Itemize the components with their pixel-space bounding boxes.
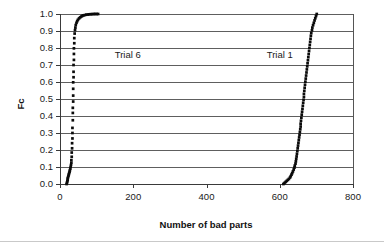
data-point bbox=[299, 125, 302, 128]
data-point bbox=[73, 59, 76, 62]
data-point bbox=[298, 136, 301, 139]
data-point bbox=[72, 70, 75, 73]
data-point bbox=[299, 122, 302, 125]
data-point bbox=[302, 101, 305, 104]
data-point bbox=[306, 68, 309, 71]
data-point bbox=[70, 159, 73, 162]
data-point bbox=[71, 137, 74, 140]
y-axis-title: Fc bbox=[15, 98, 26, 109]
y-tick-label: 0.0 bbox=[40, 178, 53, 189]
data-point bbox=[304, 77, 307, 80]
data-point bbox=[71, 147, 74, 150]
data-point bbox=[295, 155, 298, 158]
data-point bbox=[307, 53, 310, 56]
data-point bbox=[308, 47, 311, 50]
data-point bbox=[310, 34, 313, 37]
data-point bbox=[305, 71, 308, 74]
data-point bbox=[70, 161, 73, 164]
data-point bbox=[72, 94, 75, 97]
data-point bbox=[97, 13, 100, 16]
y-tick-label: 0.4 bbox=[40, 110, 53, 121]
data-point bbox=[73, 37, 76, 40]
data-point bbox=[307, 56, 310, 59]
data-point bbox=[71, 142, 74, 145]
data-point bbox=[307, 59, 310, 62]
data-point bbox=[297, 144, 300, 147]
y-tick-label: 0.9 bbox=[40, 25, 53, 36]
data-point bbox=[71, 106, 74, 109]
y-tick-label: 0.6 bbox=[40, 76, 53, 87]
data-point bbox=[311, 26, 314, 29]
data-point bbox=[310, 32, 313, 35]
data-point bbox=[72, 100, 75, 103]
data-point bbox=[304, 83, 307, 86]
data-point bbox=[308, 50, 311, 53]
data-point bbox=[302, 99, 305, 102]
data-point bbox=[304, 80, 307, 83]
data-point bbox=[300, 116, 303, 119]
data-point bbox=[312, 24, 315, 27]
data-point bbox=[70, 155, 73, 158]
data-point bbox=[300, 113, 303, 116]
data-point bbox=[299, 128, 302, 131]
y-tick-label: 0.3 bbox=[40, 127, 53, 138]
y-tick-label: 0.7 bbox=[40, 59, 53, 70]
chart-figure: 0.00.10.20.30.40.50.60.70.80.91.0 020040… bbox=[0, 0, 384, 247]
x-tick-label: 800 bbox=[345, 191, 361, 202]
data-point bbox=[296, 150, 299, 153]
data-point bbox=[71, 132, 74, 135]
x-tick-label: 0 bbox=[57, 191, 62, 202]
data-point bbox=[301, 110, 304, 113]
data-point bbox=[308, 44, 311, 47]
data-point bbox=[74, 29, 77, 32]
y-tick-label: 1.0 bbox=[40, 8, 53, 19]
data-point bbox=[309, 37, 312, 40]
data-point bbox=[73, 53, 76, 56]
data-point bbox=[73, 32, 76, 35]
y-tick-label: 0.5 bbox=[40, 93, 53, 104]
data-point bbox=[72, 81, 75, 84]
data-point bbox=[71, 127, 74, 130]
data-point bbox=[315, 13, 318, 16]
data-point bbox=[311, 29, 314, 32]
data-point bbox=[74, 26, 77, 29]
y-tick-label: 0.1 bbox=[40, 161, 53, 172]
data-point bbox=[300, 119, 303, 122]
data-point bbox=[309, 41, 312, 44]
data-point bbox=[295, 160, 298, 163]
data-point bbox=[73, 47, 76, 50]
x-tick-label: 200 bbox=[125, 191, 141, 202]
y-axis-tick-labels: 0.00.10.20.30.40.50.60.70.80.91.0 bbox=[40, 8, 53, 189]
data-point bbox=[72, 76, 75, 79]
data-point bbox=[295, 157, 298, 160]
cumulative-distribution-chart: 0.00.10.20.30.40.50.60.70.80.91.0 020040… bbox=[0, 0, 384, 247]
y-tick-label: 0.2 bbox=[40, 144, 53, 155]
data-point bbox=[297, 139, 300, 142]
data-point bbox=[303, 93, 306, 96]
data-point bbox=[296, 147, 299, 150]
data-point bbox=[297, 142, 300, 145]
data-point bbox=[72, 87, 75, 90]
data-point bbox=[72, 64, 75, 67]
x-axis-title: Number of bad parts bbox=[160, 219, 253, 230]
data-point bbox=[299, 131, 302, 134]
data-point bbox=[71, 119, 74, 122]
x-tick-label: 400 bbox=[199, 191, 215, 202]
annotation-trial-6: Trial 6 bbox=[115, 49, 141, 60]
data-point bbox=[71, 112, 74, 115]
annotation-trial-1: Trial 1 bbox=[267, 49, 293, 60]
data-point bbox=[301, 104, 304, 107]
data-point bbox=[303, 96, 306, 99]
data-point bbox=[303, 89, 306, 92]
data-point bbox=[296, 152, 299, 155]
data-point bbox=[301, 108, 304, 111]
data-point bbox=[70, 151, 73, 154]
y-tick-label: 0.8 bbox=[40, 42, 53, 53]
data-point bbox=[306, 62, 309, 65]
data-point bbox=[312, 21, 315, 24]
data-point bbox=[305, 74, 308, 77]
data-point bbox=[73, 42, 76, 45]
x-tick-label: 600 bbox=[272, 191, 288, 202]
data-point bbox=[298, 133, 301, 136]
chart-background bbox=[0, 0, 384, 247]
